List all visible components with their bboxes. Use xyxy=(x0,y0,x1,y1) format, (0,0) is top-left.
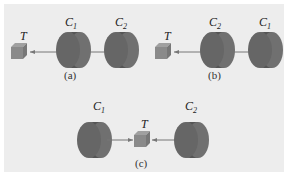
label-a-left: C1 xyxy=(65,15,77,31)
figure: T C1 C2 (a) T C2 C1 (b) T C1 xyxy=(0,0,288,178)
label-c-T: T xyxy=(141,117,149,131)
cylinder-c-c2 xyxy=(174,122,209,158)
caption-c: (c) xyxy=(135,157,148,170)
target-cube-a xyxy=(11,43,27,59)
panel-a: T C1 C2 (a) xyxy=(11,15,139,82)
label-b-right: C1 xyxy=(259,15,271,31)
target-cube-c xyxy=(134,131,150,147)
cylinder-a-c1 xyxy=(56,32,91,68)
caption-a: (a) xyxy=(64,69,77,82)
arrow-c-right xyxy=(152,138,157,142)
target-cube-b xyxy=(155,43,171,59)
cylinder-b-c2 xyxy=(200,32,235,68)
caption-b: (b) xyxy=(208,69,221,82)
arrow-a xyxy=(30,50,35,54)
panel-c: T C1 C2 (c) xyxy=(77,99,209,170)
panel-b: T C2 C1 (b) xyxy=(155,15,283,82)
label-c-right: C2 xyxy=(185,99,197,115)
label-b-left: C2 xyxy=(209,15,221,31)
cylinder-b-c1 xyxy=(248,32,283,68)
label-a-right: C2 xyxy=(115,15,127,31)
arrow-b xyxy=(174,50,179,54)
label-a-T: T xyxy=(20,29,28,43)
label-b-T: T xyxy=(164,29,172,43)
cylinder-c-c1 xyxy=(77,122,112,158)
cylinder-a-c2 xyxy=(104,32,139,68)
arrow-c-left xyxy=(128,138,133,142)
diagram-canvas: T C1 C2 (a) T C2 C1 (b) T C1 xyxy=(0,0,288,178)
label-c-left: C1 xyxy=(93,99,105,115)
